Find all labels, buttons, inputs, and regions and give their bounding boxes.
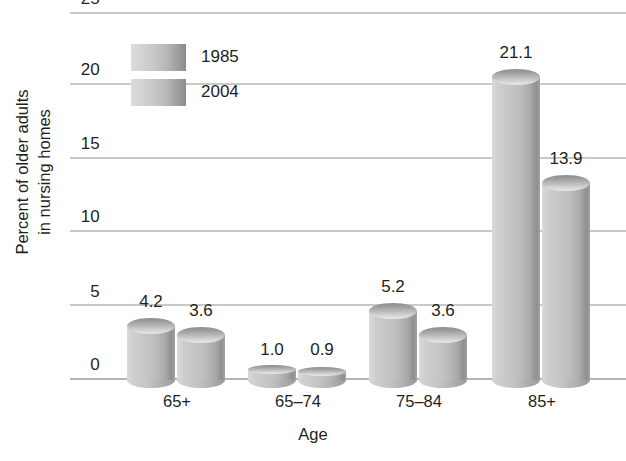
- bar-top-ellipse: [177, 327, 225, 343]
- y-tick-label-25: 25: [81, 0, 100, 7]
- value-label-2004-65-plus: 3.6: [166, 302, 236, 319]
- bar-group-75-84: 5.2 3.6: [369, 0, 471, 380]
- bar-top-ellipse: [419, 327, 467, 343]
- bar-body: [127, 326, 175, 380]
- value-label-1985-75-84: 5.2: [358, 278, 428, 295]
- bar-body: [492, 77, 540, 380]
- x-tick-label-75-84: 75–84: [349, 392, 489, 410]
- value-label-1985-85-plus: 21.1: [481, 44, 551, 61]
- value-label-2004-75-84: 3.6: [408, 302, 478, 319]
- x-tick-label-65-74: 65–74: [228, 392, 368, 410]
- plot-area: 4.2 3.6 1.0 0.9: [108, 0, 618, 380]
- x-tick-label-85-plus: 85+: [472, 392, 612, 410]
- bar-1985-85-plus: [492, 69, 540, 380]
- y-tick-label-5: 5: [90, 283, 100, 300]
- bar-group-65-74: 1.0 0.9: [248, 0, 350, 380]
- y-tick-label-15: 15: [81, 135, 100, 152]
- y-axis-title-line2: in nursing homes: [33, 47, 55, 297]
- bar-group-85-plus: 21.1 13.9: [492, 0, 594, 380]
- y-axis-title-line1: Percent of older adults: [11, 47, 33, 297]
- y-tick-label-20: 20: [81, 61, 100, 78]
- bar-top-ellipse: [492, 69, 540, 85]
- bar-2004-65-74: [298, 367, 346, 380]
- bar-2004-75-84: [419, 327, 467, 380]
- value-label-2004-85-plus: 13.9: [531, 150, 601, 167]
- bar-2004-85-plus: [542, 175, 590, 380]
- bar-top-ellipse: [248, 365, 296, 374]
- y-tick-label-10: 10: [81, 208, 100, 225]
- value-label-2004-65-74: 0.9: [287, 341, 357, 358]
- bar-1985-65-plus: [127, 318, 175, 380]
- bar-top-ellipse: [542, 175, 590, 191]
- y-tick-label-0: 0: [90, 356, 100, 373]
- y-axis-ticks: 25 20 15 10 5 0: [48, 0, 100, 461]
- x-axis-title: Age: [0, 425, 626, 444]
- bar-body: [542, 183, 590, 380]
- bar-chart: 25 20 15 10 5 0 Percent of older adults …: [0, 0, 626, 461]
- bar-group-65-plus: 4.2 3.6: [127, 0, 229, 380]
- bar-body: [369, 311, 417, 380]
- bar-1985-65-74: [248, 365, 296, 380]
- bar-top-ellipse: [298, 367, 346, 376]
- x-tick-label-65-plus: 65+: [107, 392, 247, 410]
- bar-top-ellipse: [127, 318, 175, 334]
- y-axis-title: Percent of older adults in nursing homes: [11, 47, 55, 297]
- bar-2004-65-plus: [177, 327, 225, 380]
